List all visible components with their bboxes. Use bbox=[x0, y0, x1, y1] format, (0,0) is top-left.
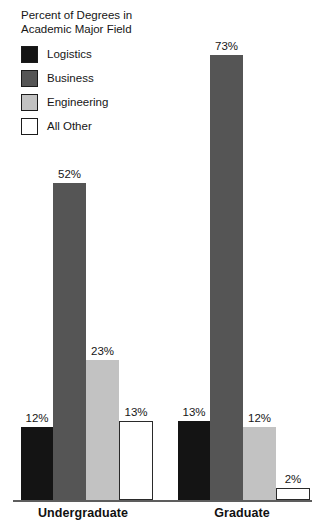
bar-logistics-graduate bbox=[178, 421, 210, 500]
bar-value-business-graduate: 73% bbox=[202, 40, 251, 52]
category-axis-line bbox=[13, 500, 312, 502]
bar-value-all-other-graduate: 2% bbox=[268, 473, 318, 485]
bar-value-all-other-undergraduate: 13% bbox=[111, 406, 161, 418]
group-label-graduate: Graduate bbox=[172, 506, 312, 520]
bar-all-other-graduate bbox=[276, 488, 310, 500]
bar-business-undergraduate bbox=[53, 183, 86, 500]
group-label-undergraduate: Undergraduate bbox=[13, 506, 153, 520]
bar-engineering-undergraduate bbox=[86, 360, 119, 500]
bar-engineering-graduate bbox=[243, 427, 276, 500]
bar-value-business-undergraduate: 52% bbox=[45, 168, 94, 180]
plot-area: 12%52%23%13%13%73%12%2% Undergraduate Gr… bbox=[0, 0, 324, 531]
bar-business-graduate bbox=[210, 55, 243, 500]
bar-all-other-undergraduate bbox=[119, 421, 153, 500]
bar-value-engineering-undergraduate: 23% bbox=[78, 345, 127, 357]
bar-value-engineering-graduate: 12% bbox=[235, 412, 284, 424]
bar-logistics-undergraduate bbox=[21, 427, 53, 500]
